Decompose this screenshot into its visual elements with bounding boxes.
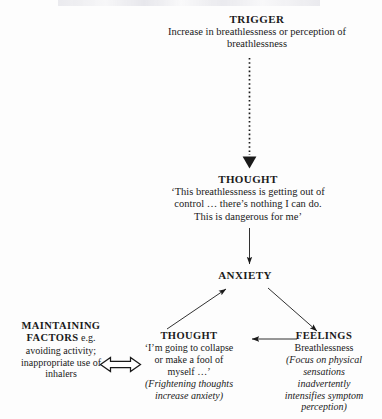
- maintaining-heading-line-1: MAINTAINING: [2, 320, 120, 332]
- feelings-heading: FEELINGS: [268, 330, 380, 342]
- scan-artifact: [58, 0, 320, 6]
- trigger-body-line-2: breathlessness: [141, 38, 373, 50]
- cognitive-model-diagram: TRIGGER Increase in breathlessness or pe…: [0, 0, 382, 419]
- connector-trigger-to-thought: [243, 58, 257, 169]
- thought-bottom-italic-line-2: increase anxiety): [128, 390, 250, 402]
- thought-bottom-italic-line-1: (Frightening thoughts: [128, 378, 250, 390]
- maintaining-heading-word: FACTORS: [27, 332, 79, 343]
- node-trigger: TRIGGER Increase in breathlessness or pe…: [141, 13, 373, 51]
- maintaining-body-line-3: inhalers: [2, 368, 120, 380]
- node-anxiety: ANXIETY: [185, 269, 305, 282]
- connector-thought-bottom-to-anxiety: [167, 289, 226, 329]
- thought-bottom-body-line-3: myself …’: [128, 366, 250, 378]
- feelings-italic-line-5: perception): [268, 401, 380, 413]
- maintaining-body-line-2: inappropriate use of: [2, 357, 120, 369]
- thought-bottom-body-line-2: or make a fool of: [128, 354, 250, 366]
- feelings-italic-line-2: sensations: [268, 366, 380, 378]
- thought-top-body-line-2: control … there’s nothing I can do.: [128, 198, 368, 210]
- thought-top-heading: THOUGHT: [128, 173, 368, 186]
- node-maintaining-factors: MAINTAINING FACTORS e.g. avoiding activi…: [2, 320, 120, 380]
- maintaining-heading-line-2: FACTORS e.g.: [2, 332, 120, 344]
- trigger-body-line-1: Increase in breathlessness or perception…: [141, 26, 373, 38]
- thought-top-body-line-1: ‘This breathlessness is getting out of: [128, 186, 368, 198]
- maintaining-heading-suffix: e.g.: [79, 332, 96, 343]
- maintaining-body-line-1: avoiding activity;: [2, 345, 120, 357]
- node-thought-top: THOUGHT ‘This breathlessness is getting …: [128, 173, 368, 223]
- feelings-italic-line-4: intensifies symptom: [268, 390, 380, 402]
- anxiety-heading: ANXIETY: [185, 269, 305, 282]
- node-feelings: FEELINGS Breathlessness (Focus on physic…: [268, 330, 380, 413]
- trigger-heading: TRIGGER: [141, 13, 373, 26]
- thought-bottom-heading: THOUGHT: [128, 330, 250, 342]
- feelings-italic-line-1: (Focus on physical: [268, 354, 380, 366]
- feelings-body-line-1: Breathlessness: [268, 342, 380, 354]
- feelings-italic-line-3: inadvertently: [268, 378, 380, 390]
- node-thought-bottom: THOUGHT ‘I’m going to collapse or make a…: [128, 330, 250, 401]
- connector-anxiety-to-feelings: [268, 288, 317, 331]
- thought-bottom-body-line-1: ‘I’m going to collapse: [128, 342, 250, 354]
- thought-top-body-line-3: This is dangerous for me’: [128, 211, 368, 223]
